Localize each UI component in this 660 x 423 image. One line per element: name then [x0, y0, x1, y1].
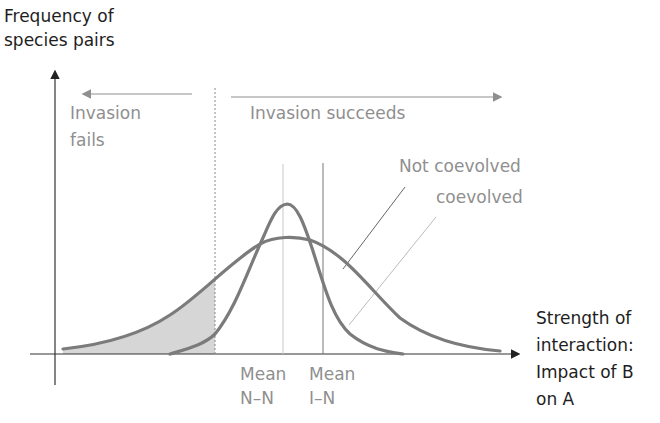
invasion-fails-line: fails: [70, 127, 141, 154]
not-coevolved-label: Not coevolved: [399, 156, 521, 176]
shaded-failure-region: [63, 280, 215, 354]
x-axis-label-line: on A: [536, 386, 634, 413]
y-axis-label: Frequency of species pairs: [4, 4, 115, 52]
invasion-succeeds-label: Invasion succeeds: [250, 103, 405, 123]
x-axis-label-line: Impact of B: [536, 359, 634, 386]
x-axis-label: Strength of interaction: Impact of B on …: [536, 305, 634, 413]
y-axis-label-line: Frequency of: [4, 4, 115, 28]
not-coevolved-curve: [63, 237, 500, 351]
y-axis-label-line: species pairs: [4, 28, 115, 52]
x-axis-label-line: Strength of: [536, 305, 634, 332]
invasion-fails-line: Invasion: [70, 100, 141, 127]
coevolved-label: coevolved: [436, 187, 523, 207]
mean-in-label: Mean I–N: [309, 362, 355, 410]
mean-nn-label: Mean N–N: [240, 362, 286, 410]
x-axis-label-line: interaction:: [536, 332, 634, 359]
mean-in-line1: Mean: [309, 362, 355, 386]
mean-nn-line1: Mean: [240, 362, 286, 386]
mean-nn-line2: N–N: [240, 386, 286, 410]
mean-in-line2: I–N: [309, 386, 355, 410]
not-coevolved-leader: [343, 187, 405, 269]
invasion-fails-label: Invasion fails: [70, 100, 141, 154]
